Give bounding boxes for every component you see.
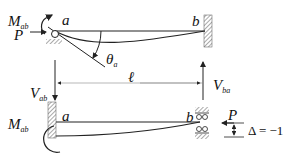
shear-left-label: Vab [30, 86, 47, 103]
force-label-top: P [14, 28, 23, 43]
node-b-top: b [192, 14, 200, 29]
span-length-label: ℓ [128, 70, 134, 85]
moment-label-bottom: Mab [8, 117, 29, 134]
top-beam [30, 15, 212, 67]
node-b-bottom: b [186, 110, 194, 125]
node-a-top: a [62, 13, 70, 28]
shear-right-label: Vba [213, 78, 230, 95]
node-a-bottom: a [62, 109, 70, 124]
rotation-label: θa [106, 52, 117, 69]
force-label-bottom: P [228, 108, 237, 123]
bottom-beam [44, 102, 244, 152]
displacement-label: Δ = −1 [248, 124, 283, 137]
